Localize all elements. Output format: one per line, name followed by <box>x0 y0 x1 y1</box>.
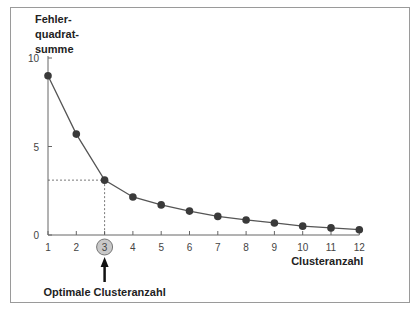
x-tick-label: 9 <box>272 242 278 253</box>
x-tick-label: 7 <box>215 242 221 253</box>
data-point <box>129 193 137 201</box>
data-point <box>356 226 364 234</box>
data-point <box>44 72 52 80</box>
x-axis-label: Clusteranzahl <box>291 255 363 267</box>
data-point <box>157 201 165 209</box>
x-tick-label: 6 <box>187 242 193 253</box>
x-tick-label: 2 <box>74 242 80 253</box>
data-point <box>327 224 335 232</box>
x-tick-label: 8 <box>243 242 249 253</box>
y-tick-label: 5 <box>33 142 39 153</box>
x-tick-label: 3 <box>102 242 108 253</box>
elbow-chart: 0510123456789101112ClusteranzahlOptimale… <box>0 0 415 315</box>
data-point <box>242 216 250 224</box>
x-tick-label: 4 <box>130 242 136 253</box>
arrow-up-icon <box>101 257 109 267</box>
annotation-label: Optimale Clusteranzahl <box>43 286 165 298</box>
data-point <box>101 176 109 184</box>
data-point <box>73 130 81 138</box>
data-point <box>271 219 279 227</box>
x-tick-label: 12 <box>354 242 366 253</box>
data-point <box>299 222 307 230</box>
y-tick-label: 0 <box>33 230 39 241</box>
data-point <box>186 207 194 215</box>
x-tick-label: 1 <box>45 242 51 253</box>
y-tick-label: 10 <box>28 53 40 64</box>
x-tick-label: 10 <box>297 242 309 253</box>
data-point <box>214 213 222 221</box>
x-tick-label: 11 <box>326 242 337 253</box>
data-line <box>48 76 359 230</box>
x-tick-label: 5 <box>158 242 164 253</box>
